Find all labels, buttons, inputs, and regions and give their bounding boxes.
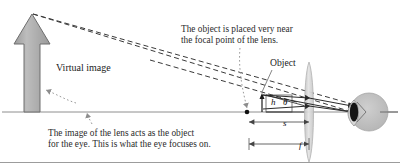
eye — [348, 93, 398, 131]
virtual-image-label: Virtual image — [56, 62, 111, 74]
virtual-image-arrow — [14, 14, 50, 112]
bottom-annotation: The image of the lens acts as the object… — [48, 128, 211, 150]
object-label: Object — [270, 57, 296, 68]
angle-symbol-label: θ — [283, 97, 287, 107]
virtual-image-leader — [46, 90, 76, 103]
object-distance-label: s — [283, 118, 287, 128]
focal-point-annotation: The object is placed very near the focal… — [181, 24, 293, 46]
height-symbol-label: h — [271, 97, 276, 107]
focal-point-leader — [240, 48, 250, 114]
figure-canvas: The object is placed very near the focal… — [0, 0, 400, 163]
focal-length-label: f — [299, 140, 302, 150]
bottom-note-leader — [87, 113, 92, 124]
